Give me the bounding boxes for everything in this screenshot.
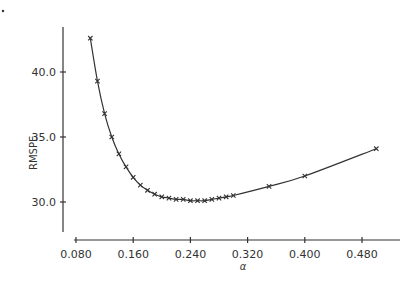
rmspe-vs-alpha-chart: 30.035.040.0 0.0800.1600.2400.3200.4000.…	[0, 0, 417, 284]
x-tick-label: 0.320	[232, 248, 264, 261]
x-tick-label: 0.480	[346, 248, 378, 261]
x-tick-label: 0.080	[60, 248, 92, 261]
y-axis-label: RMSPE	[28, 136, 39, 170]
x-marker	[145, 188, 149, 192]
y-tick-label: 30.0	[32, 196, 57, 209]
x-axis: 0.0800.1600.2400.3200.4000.480	[60, 237, 400, 261]
x-axis-label: α	[240, 261, 247, 272]
x-marker	[138, 183, 142, 187]
corner-dot	[2, 10, 4, 12]
x-tick-label: 0.400	[289, 248, 321, 261]
x-tick-label: 0.160	[117, 248, 149, 261]
x-marker	[152, 192, 156, 196]
x-tick-label: 0.240	[175, 248, 207, 261]
y-axis: 30.035.040.0	[32, 27, 67, 232]
rmspe-curve	[90, 38, 376, 201]
x-marker	[117, 152, 121, 156]
data-series	[88, 36, 378, 203]
x-marker	[124, 165, 128, 169]
x-marker	[131, 175, 135, 179]
y-tick-label: 40.0	[32, 66, 57, 79]
